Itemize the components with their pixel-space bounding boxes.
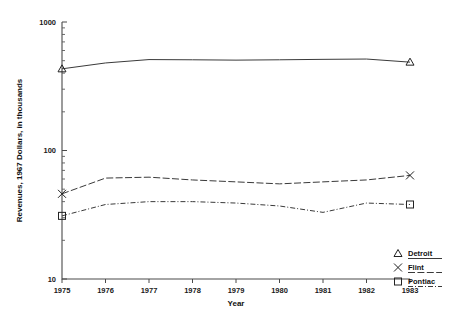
legend-label-detroit: Detroit <box>408 249 433 258</box>
x-tick-label: 1978 <box>184 286 201 295</box>
series-line-detroit <box>62 59 410 69</box>
x-tick-label: 1980 <box>271 286 288 295</box>
x-axis-title: Year <box>228 299 245 308</box>
legend-label-flint: Flint <box>408 263 424 272</box>
y-axis-title: Revenues, 1967 Dollars, in thousands <box>15 78 24 222</box>
x-tick-label: 1979 <box>228 286 245 295</box>
y-tick-label: 10 <box>48 275 56 284</box>
chart-container: 1000100101975197619771978197919801981198… <box>0 0 458 323</box>
series-line-pontiac <box>62 202 410 216</box>
y-tick-label: 100 <box>43 146 56 155</box>
line-chart: 1000100101975197619771978197919801981198… <box>0 0 458 323</box>
x-tick-label: 1977 <box>141 286 158 295</box>
x-tick-label: 1981 <box>315 286 332 295</box>
series-line-flint <box>62 175 410 193</box>
y-tick-label: 1000 <box>39 18 56 27</box>
x-tick-label: 1975 <box>54 286 71 295</box>
marker-triangle <box>394 250 402 257</box>
legend-label-pontiac: Pontiac <box>408 277 435 286</box>
x-tick-label: 1976 <box>97 286 114 295</box>
x-tick-label: 1983 <box>402 286 419 295</box>
x-tick-label: 1982 <box>358 286 375 295</box>
marker-x <box>394 264 402 272</box>
